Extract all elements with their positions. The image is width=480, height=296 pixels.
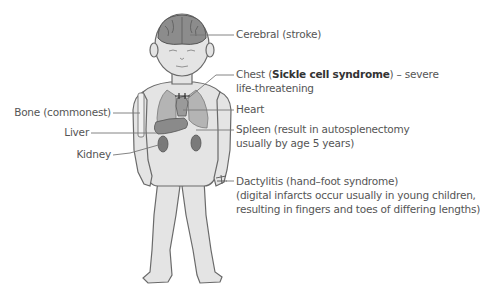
label-kidney: Kidney — [0, 148, 111, 161]
kidney-icon — [158, 136, 168, 152]
label-heart: Heart — [236, 103, 264, 116]
label-dactylitis: Dactylitis (hand–foot syndrome) — [236, 175, 398, 188]
label-chest-line2: life-threatening — [236, 82, 314, 95]
brain-icon — [158, 15, 206, 44]
label-chest-bold: Sickle cell syndrome — [272, 68, 389, 80]
label-spleen: Spleen (result in autosplenectomy — [236, 123, 410, 136]
label-chest: Chest (Sickle cell syndrome) – severe — [236, 68, 439, 81]
bone-icon — [138, 93, 144, 137]
spleen-icon — [191, 135, 201, 151]
label-bone: Bone (commonest) — [0, 106, 111, 119]
label-chest-suffix: ) – severe — [390, 68, 439, 80]
label-chest-prefix: Chest ( — [236, 68, 272, 80]
label-liver: Liver — [0, 126, 89, 139]
label-spleen-line2: usually by age 5 years) — [236, 137, 354, 150]
label-cerebral: Cerebral (stroke) — [236, 28, 321, 41]
body-outline — [133, 14, 231, 283]
label-dactylitis-line3: resulting in fingers and toes of differi… — [236, 203, 480, 216]
label-dactylitis-line2: (digital infarcts occur usually in young… — [236, 189, 476, 202]
